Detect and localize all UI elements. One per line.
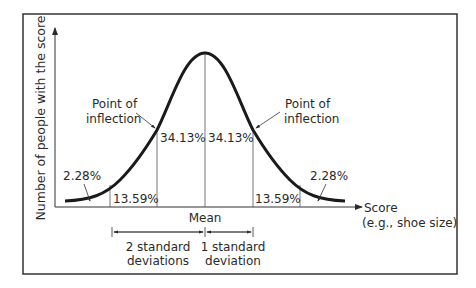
sd-lines [110, 53, 300, 207]
inflection-left-label-2: inflection [86, 112, 141, 126]
two-sd-label-2: deviations [127, 254, 189, 268]
pct-right-tail: 2.28% [310, 169, 348, 183]
inflection-right-pointer [256, 112, 280, 128]
x-axis-label-1: Score [364, 201, 398, 215]
x-axis-label-2: (e.g., shoe size) [362, 216, 457, 230]
inflection-right-label-1: Point of [285, 97, 331, 111]
inflection-right-label-2: inflection [284, 112, 339, 126]
pct-right-1sd: 34.13% [208, 131, 254, 145]
sd-brackets [112, 227, 253, 237]
two-sd-label-1: 2 standard [126, 240, 191, 254]
pct-left-2sd: 13.59% [113, 192, 159, 206]
pct-left-tail: 2.28% [63, 169, 101, 183]
mean-label: Mean [189, 211, 222, 225]
one-sd-label-1: 1 standard [201, 240, 266, 254]
normal-distribution-diagram: Number of people with the score 2.28% 13… [0, 0, 476, 288]
pct-left-1sd: 34.13% [160, 131, 206, 145]
y-axis-label: Number of people with the score [33, 15, 48, 220]
pct-right-2sd: 13.59% [255, 192, 301, 206]
inflection-left-label-1: Point of [92, 97, 138, 111]
one-sd-label-2: deviation [205, 254, 261, 268]
